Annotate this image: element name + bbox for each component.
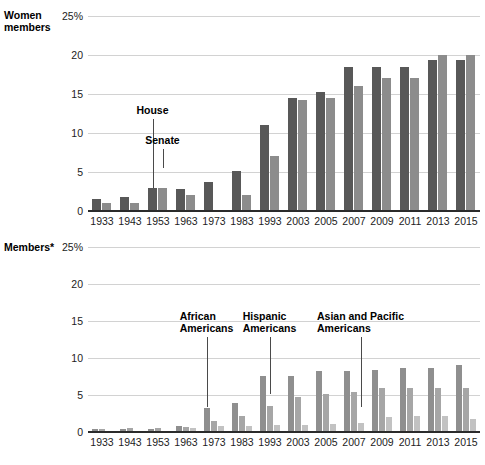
plot-area-members: 25%20151050 AfricanAmericansHispanicAmer…: [88, 247, 480, 432]
y-tick-label-25: 25%: [62, 241, 83, 253]
x-tick-label-2003: 2003: [286, 215, 309, 227]
x-tick-label-2015: 2015: [454, 436, 477, 448]
y-tick-label-10: 10: [71, 352, 83, 364]
x-tick-label-2011: 2011: [399, 436, 422, 448]
y-tick-label-15: 15: [71, 315, 83, 327]
panel-members-title-line1: Members*: [4, 241, 54, 253]
y-tick-label-10: 10: [71, 127, 83, 139]
y-tick-label-0: 0: [77, 205, 83, 217]
x-tick-label-1943: 1943: [118, 436, 141, 448]
x-tick-label-1953: 1953: [146, 215, 169, 227]
panel-women-members: Womenmembers 25%20151050 HouseSenate 193…: [0, 0, 485, 232]
y-tick-label-0: 0: [77, 426, 83, 438]
panel-members: Members* 25%20151050 AfricanAmericansHis…: [0, 232, 485, 465]
x-tick-label-2009: 2009: [370, 436, 393, 448]
x-tick-label-1953: 1953: [146, 436, 169, 448]
chart-figure: Womenmembers 25%20151050 HouseSenate 193…: [0, 0, 485, 465]
x-tick-label-1993: 1993: [258, 215, 281, 227]
x-tick-label-1973: 1973: [202, 215, 225, 227]
x-tick-label-2005: 2005: [314, 436, 337, 448]
plot-area-women: 25%20151050 HouseSenate 1933194319531963…: [88, 16, 480, 211]
x-tick-label-2013: 2013: [426, 215, 449, 227]
y-tick-label-5: 5: [77, 166, 83, 178]
x-tick-label-1983: 1983: [230, 436, 253, 448]
x-tick-labels-members: 1933194319531963197319831993200320052007…: [88, 247, 480, 432]
panel-members-title: Members*: [4, 241, 64, 253]
y-tick-label-20: 20: [71, 278, 83, 290]
x-tick-label-1973: 1973: [202, 436, 225, 448]
x-tick-label-1993: 1993: [258, 436, 281, 448]
y-tick-label-15: 15: [71, 88, 83, 100]
x-tick-label-1983: 1983: [230, 215, 253, 227]
x-tick-label-2015: 2015: [454, 215, 477, 227]
y-tick-label-20: 20: [71, 49, 83, 61]
x-tick-label-2005: 2005: [314, 215, 337, 227]
x-tick-label-2007: 2007: [342, 215, 365, 227]
x-tick-label-2009: 2009: [370, 215, 393, 227]
y-tick-label-5: 5: [77, 389, 83, 401]
x-tick-label-1933: 1933: [90, 436, 113, 448]
x-tick-label-2013: 2013: [426, 436, 449, 448]
x-tick-label-2011: 2011: [399, 215, 422, 227]
x-tick-labels-women: 1933194319531963197319831993200320052007…: [88, 16, 480, 211]
panel-women-title: Womenmembers: [4, 9, 64, 33]
panel-women-title-line1: Women: [4, 9, 42, 21]
x-tick-label-2003: 2003: [286, 436, 309, 448]
x-tick-label-1963: 1963: [174, 436, 197, 448]
x-tick-label-1933: 1933: [90, 215, 113, 227]
x-tick-label-1963: 1963: [174, 215, 197, 227]
x-tick-label-2007: 2007: [342, 436, 365, 448]
x-tick-label-1943: 1943: [118, 215, 141, 227]
y-tick-label-25: 25%: [62, 10, 83, 22]
panel-women-title-line2: members: [4, 21, 51, 33]
